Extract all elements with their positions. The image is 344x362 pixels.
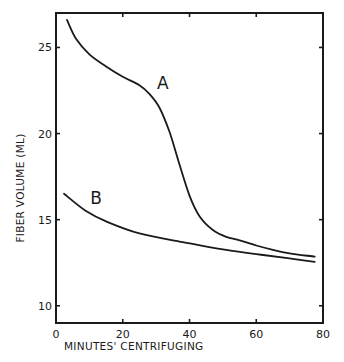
y-tick-labels: 10152025 xyxy=(38,41,52,312)
y-ticks xyxy=(56,47,323,305)
x-tick-label: 80 xyxy=(316,328,330,341)
series-labels: AB xyxy=(90,73,169,208)
chart: 020406080 10152025 AB MINUTES' CENTRIFUG… xyxy=(0,0,344,362)
series-label-a: A xyxy=(157,73,169,93)
y-tick-label: 10 xyxy=(38,300,52,313)
x-tick-label: 60 xyxy=(249,328,263,341)
y-tick-label: 20 xyxy=(38,128,52,141)
x-ticks xyxy=(123,13,257,323)
series-label-b: B xyxy=(90,188,102,208)
x-axis-title: MINUTES' CENTRIFUGING xyxy=(64,340,204,352)
y-axis-title: FIBER VOLUME (ML) xyxy=(14,133,26,242)
x-tick-label: 0 xyxy=(53,328,60,341)
series-lines xyxy=(64,20,315,262)
y-tick-label: 15 xyxy=(38,214,52,227)
y-tick-label: 25 xyxy=(38,41,52,54)
